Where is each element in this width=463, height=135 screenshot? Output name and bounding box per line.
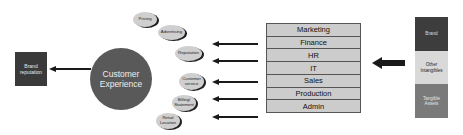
arrow-dept-2 bbox=[218, 60, 258, 62]
arrow-dept-1 bbox=[218, 43, 258, 45]
asset-brand: Brand bbox=[415, 17, 448, 51]
asset-tangible-assets: Tangible Assets bbox=[415, 84, 448, 118]
departments-stack: Marketing Finance HR IT Sales Production… bbox=[266, 23, 361, 113]
arrow-head-left-icon bbox=[372, 57, 382, 69]
arrow-head-left-icon bbox=[49, 66, 56, 72]
bubble-billing-statement: Billing/ Statement bbox=[172, 95, 196, 111]
arrow-dept-3 bbox=[218, 81, 258, 83]
arrow-head-left-icon bbox=[212, 114, 219, 120]
bubble-advertising: Advertising bbox=[158, 25, 185, 40]
arrow-assets-to-departments bbox=[381, 60, 405, 66]
dept-admin: Admin bbox=[267, 100, 360, 112]
dept-sales: Sales bbox=[267, 75, 360, 88]
arrow-head-left-icon bbox=[212, 79, 219, 85]
bubble-pricing: Pricing bbox=[133, 12, 157, 27]
customer-experience-label: Customer Experience bbox=[98, 69, 144, 89]
brand-reputation-box: Brand reputation bbox=[15, 52, 47, 86]
asset-other-intangibles: Other Intangibles bbox=[415, 51, 448, 85]
arrow-dept-5 bbox=[218, 116, 258, 118]
bubble-retail-location: Retail Location bbox=[156, 113, 180, 129]
bubble-customer-service: Customer service bbox=[179, 73, 204, 90]
bubble-reputation: Reputation bbox=[175, 46, 202, 61]
arrow-head-left-icon bbox=[212, 96, 219, 102]
brand-reputation-label: Brand reputation bbox=[15, 63, 47, 75]
arrow-head-left-icon bbox=[212, 41, 219, 47]
dept-hr: HR bbox=[267, 49, 360, 62]
dept-production: Production bbox=[267, 88, 360, 101]
dept-marketing: Marketing bbox=[267, 24, 360, 37]
dept-finance: Finance bbox=[267, 37, 360, 50]
arrow-head-left-icon bbox=[212, 58, 219, 64]
assets-column: Brand Other Intangibles Tangible Assets bbox=[415, 17, 448, 118]
arrow-dept-4 bbox=[218, 98, 258, 100]
arrow-to-brand-reputation bbox=[55, 68, 91, 70]
customer-experience-circle: Customer Experience bbox=[90, 48, 152, 110]
dept-it: IT bbox=[267, 62, 360, 75]
